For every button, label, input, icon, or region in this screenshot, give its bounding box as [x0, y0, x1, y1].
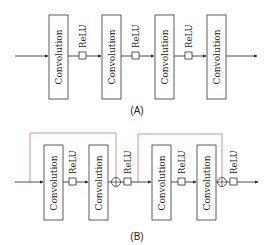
relu-b2: ReLU: [123, 150, 133, 185]
conv-block-b4: Convolution: [197, 145, 216, 220]
relu-label: ReLU: [68, 150, 78, 174]
panel-a: Convolution ReLU Convolution ReLU Convol…: [15, 15, 257, 116]
conv-label: Convolution: [54, 29, 64, 84]
relu-label: ReLU: [131, 24, 141, 48]
conv-label: Convolution: [107, 29, 117, 84]
relu-label: ReLU: [184, 24, 194, 48]
conv-block-b3: Convolution: [152, 145, 171, 220]
relu-label: ReLU: [229, 150, 239, 174]
conv-block-a2: Convolution: [102, 15, 121, 99]
sum-node-b2: [218, 178, 227, 187]
relu-b4: ReLU: [229, 150, 239, 185]
relu-b1: ReLU: [68, 150, 78, 185]
panel-b: Convolution ReLU Convolution ReLU Convol…: [15, 133, 258, 242]
conv-block-b1: Convolution: [44, 145, 63, 220]
caption-b: (B): [130, 231, 143, 242]
relu-label: ReLU: [78, 24, 88, 48]
conv-label: Convolution: [94, 155, 104, 210]
conv-block-b2: Convolution: [89, 145, 108, 220]
relu-a2: ReLU: [131, 24, 141, 59]
conv-block-a1: Convolution: [49, 15, 68, 99]
conv-label: Convolution: [212, 29, 222, 84]
conv-label: Convolution: [202, 155, 212, 210]
relu-label: ReLU: [123, 150, 133, 174]
conv-label: Convolution: [157, 155, 167, 210]
relu-a1: ReLU: [78, 24, 88, 59]
relu-a3: ReLU: [184, 24, 194, 59]
caption-a: (A): [130, 105, 143, 116]
conv-block-a3: Convolution: [155, 15, 174, 99]
conv-label: Convolution: [160, 29, 170, 84]
resnet-diagram: Convolution ReLU Convolution ReLU Convol…: [0, 0, 274, 245]
conv-block-a4: Convolution: [207, 15, 226, 99]
relu-b3: ReLU: [177, 150, 187, 185]
sum-node-b1: [112, 178, 121, 187]
conv-label: Convolution: [49, 155, 59, 210]
relu-label: ReLU: [177, 150, 187, 174]
